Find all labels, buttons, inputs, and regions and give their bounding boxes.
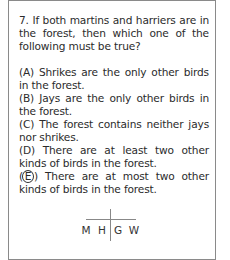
choice-e: (E) There are at most two other kinds of…: [19, 170, 209, 196]
question-content: 7. If both martins and harriers are in t…: [19, 14, 209, 196]
diagram-letter-h: H: [94, 224, 110, 236]
handwritten-diagram: MHGW: [70, 208, 160, 248]
circled-answer-mark: E: [22, 170, 34, 183]
diagram-letter-w: W: [126, 224, 142, 236]
choice-a: (A) Shrikes are the only other birds in …: [19, 66, 209, 92]
diagram-letter-g: G: [110, 224, 126, 236]
diagram-letters: MHGW: [78, 224, 142, 236]
diagram-letter-m: M: [78, 224, 94, 236]
choice-c: (C) The forest contains neither jays nor…: [19, 118, 209, 144]
choice-d: (D) There are at least two other kinds o…: [19, 144, 209, 170]
diagram-horizontal-line: [86, 219, 136, 220]
question-stem: 7. If both martins and harriers are in t…: [19, 14, 209, 53]
choice-e-text: There are at most two other kinds of bir…: [19, 170, 209, 195]
choice-b: (B) Jays are the only other birds in the…: [19, 92, 209, 118]
